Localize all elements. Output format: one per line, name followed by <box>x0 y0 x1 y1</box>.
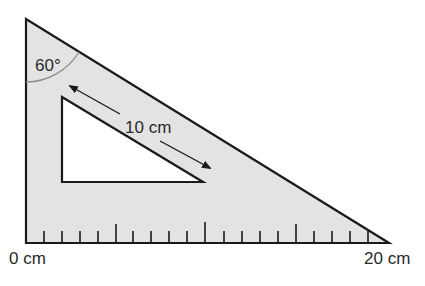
scale-start-label: 0 cm <box>9 249 46 268</box>
set-square-diagram: 60° 10 cm 0 cm 20 cm <box>0 0 425 286</box>
scale-end-label: 20 cm <box>364 249 410 268</box>
length-label: 10 cm <box>125 118 171 137</box>
angle-label: 60° <box>35 56 61 75</box>
